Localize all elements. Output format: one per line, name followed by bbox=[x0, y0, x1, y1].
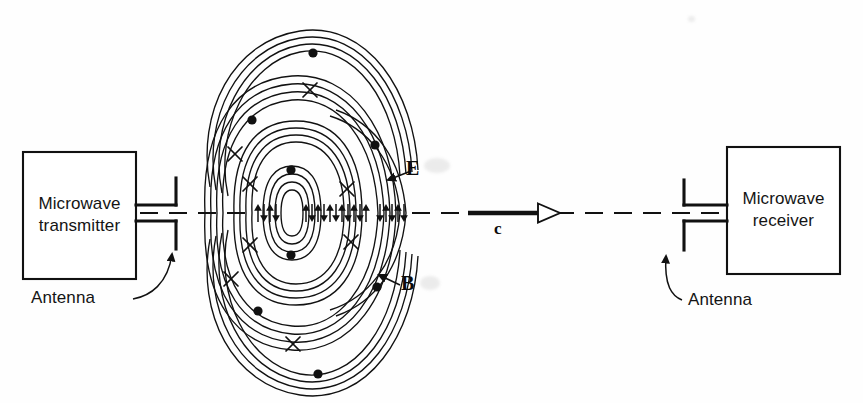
transmitter-antenna-leader bbox=[133, 254, 172, 299]
transmitter-label-line2: transmitter bbox=[23, 215, 136, 237]
scan-artifact bbox=[420, 276, 440, 290]
receiver-antenna-label: Antenna bbox=[688, 290, 752, 310]
scan-artifact bbox=[424, 158, 450, 173]
figure-canvas: Microwave transmitter Microwave receiver… bbox=[0, 0, 863, 403]
b-field-crosses bbox=[224, 83, 358, 351]
transmitter-label-line1: Microwave bbox=[23, 193, 136, 215]
receiver-label-line2: receiver bbox=[727, 210, 840, 232]
wavefront-3-upper bbox=[205, 76, 396, 213]
receiver-label: Microwave receiver bbox=[727, 188, 840, 233]
receiver-antenna-leader bbox=[666, 256, 682, 300]
propagation-label: c bbox=[494, 219, 502, 239]
transmitter-antenna-label: Antenna bbox=[31, 288, 95, 308]
transmitter-label: Microwave transmitter bbox=[23, 193, 136, 238]
propagation-arrow bbox=[468, 204, 560, 223]
wavefront-4-lower bbox=[207, 230, 418, 396]
scan-artifact bbox=[688, 16, 695, 22]
axis-field-arrows bbox=[258, 204, 404, 222]
receiver-label-line1: Microwave bbox=[727, 188, 840, 210]
magnetic-field-label: B bbox=[401, 272, 414, 295]
receiver-antenna bbox=[684, 180, 727, 250]
electric-field-label: E bbox=[406, 157, 419, 180]
